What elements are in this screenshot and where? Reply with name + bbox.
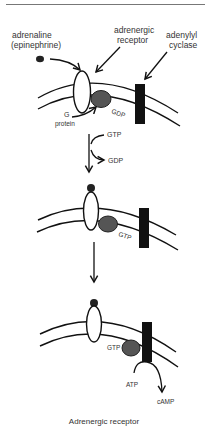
adrenergic-receptor [87, 306, 102, 342]
adrenergic-receptor [84, 192, 99, 230]
arrow-to-receptor [96, 47, 120, 72]
arrow-gdp-out [91, 150, 104, 160]
label-epinephrine: (epinephrine) [11, 40, 61, 50]
label-gtp-bound: GTP [118, 230, 133, 241]
label-adrenaline: adrenaline [12, 30, 52, 40]
g-protein [91, 91, 111, 108]
label-cyclase: cyclase [169, 40, 198, 50]
arrow-atp-to-camp [134, 362, 162, 392]
arrow-ligand-to-receptor [50, 59, 80, 70]
adrenaline-molecule [36, 56, 44, 63]
panel-2-activated: GTP [37, 184, 178, 250]
label-receptor: receptor [117, 35, 148, 45]
transition-gdp-gtp-exchange: GTP GDP [89, 131, 124, 172]
figure-caption: Adrenergic receptor [69, 417, 140, 426]
g-protein [99, 216, 118, 232]
adrenaline-molecule-bound [87, 184, 95, 192]
label-gtp-bound: GTP [107, 344, 120, 351]
label-camp: cAMP [157, 398, 174, 405]
label-adrenergic: adrenergic [114, 25, 155, 35]
g-protein [122, 340, 140, 356]
arrow-gtp-in [91, 135, 104, 144]
adrenergic-receptor [74, 71, 91, 113]
label-atp: ATP [126, 381, 138, 388]
label-adenylyl: adenylyl [166, 30, 197, 40]
label-gdp-bound: GDP [111, 107, 127, 118]
label-g: G [64, 111, 69, 118]
panel-3-cyclase-active: GTP ATP cAMP [40, 299, 178, 405]
label-gdp-out: GDP [108, 157, 124, 164]
label-protein: protein [55, 120, 75, 128]
adenylyl-cyclase [139, 208, 149, 248]
adrenergic-receptor-diagram: adrenaline (epinephrine) adrenergic rece… [0, 0, 208, 430]
arrow-to-cyclase [145, 52, 167, 79]
panel-1-inactive: adrenaline (epinephrine) adrenergic rece… [11, 25, 198, 128]
label-gtp-in: GTP [107, 131, 122, 138]
adenylyl-cyclase [142, 322, 152, 362]
adenylyl-cyclase [135, 84, 145, 124]
